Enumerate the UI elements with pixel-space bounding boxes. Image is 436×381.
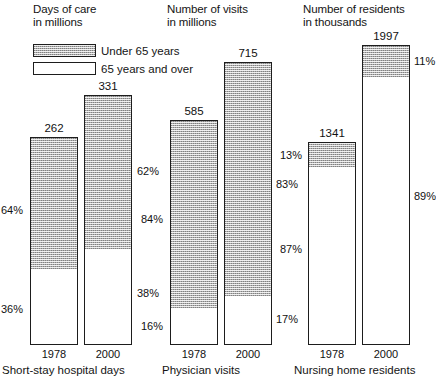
panel3-bar2-year-label: 2000 [362, 348, 410, 360]
panel3-bar2-segment-under65 [363, 46, 409, 79]
panel2-bar1-year-label: 1978 [170, 348, 218, 360]
panel-short-stay-hospital-days: Days of care in millions Under 65 years … [0, 0, 150, 381]
panel3-bar2-total: 1997 [362, 30, 410, 42]
panel-nursing-home-residents: Number of residents in thousands 1341 13… [290, 0, 421, 381]
panel1-bar2-segment-over65 [85, 249, 131, 344]
panel3-bar2-pct-under65: 11% [414, 55, 435, 67]
panel3-bar1-segment-under65 [309, 143, 355, 169]
panel2-bar1-pct-over65: 16% [141, 320, 163, 332]
panel2-bar1-segment-over65 [171, 308, 217, 344]
panel3-bar1-year-label: 1978 [308, 348, 356, 360]
panel3-bar-2000 [362, 45, 410, 345]
panel3-bar1-total: 1341 [308, 127, 356, 139]
panel3-bar2-segment-over65 [363, 77, 409, 344]
panel3-caption: Nursing home residents [294, 364, 415, 377]
panel1-bar1-total: 262 [30, 122, 78, 134]
panel2-bar-1978 [170, 120, 218, 345]
panel1-caption: Short-stay hospital days [2, 364, 125, 377]
panel1-bar-1978 [30, 137, 78, 345]
panel1-title-line1: Days of care [33, 3, 96, 16]
panel2-bar2-total: 715 [224, 47, 272, 59]
panel3-bar1-segment-over65 [309, 167, 355, 344]
panel2-bar-2000 [224, 62, 272, 345]
panel1-bar-2000 [84, 95, 132, 345]
panel3-bar2-pct-over65: 89% [414, 190, 436, 202]
panel2-bar2-segment-under65 [225, 63, 271, 298]
panel1-bar1-segment-under65 [31, 138, 77, 271]
panel-physician-visits: Number of visits in millions 585 84% 16%… [150, 0, 290, 381]
panel2-bar1-pct-under65: 84% [141, 213, 163, 225]
panel1-bar1-segment-over65 [31, 269, 77, 344]
panel1-bar1-year-label: 1978 [30, 348, 78, 360]
panel2-title-line1: Number of visits [167, 3, 248, 16]
panel2-bar2-segment-over65 [225, 296, 271, 344]
panel3-title-line1: Number of residents [303, 3, 405, 16]
panel1-bar2-total: 331 [84, 80, 132, 92]
panel3-bar1-pct-over65: 87% [280, 243, 302, 255]
panel3-title-line2: in thousands [303, 16, 367, 29]
panel1-bar1-pct-over65: 36% [1, 303, 23, 315]
panel1-bar2-year-label: 2000 [84, 348, 132, 360]
panel2-bar1-segment-under65 [171, 121, 217, 310]
panel1-bar2-segment-under65 [85, 96, 131, 251]
panel3-bar-1978 [308, 142, 356, 345]
panel2-caption: Physician visits [162, 364, 240, 377]
legend-swatch-under65-icon [33, 44, 96, 57]
panel2-bar2-year-label: 2000 [224, 348, 272, 360]
panel1-title-line2: in millions [33, 16, 82, 29]
panel2-bar1-total: 585 [170, 105, 218, 117]
panel3-bar1-pct-under65: 13% [280, 149, 302, 161]
legend-swatch-over65-icon [33, 62, 96, 75]
panel1-bar1-pct-under65: 64% [1, 204, 23, 216]
panel2-title-line2: in millions [167, 16, 216, 29]
